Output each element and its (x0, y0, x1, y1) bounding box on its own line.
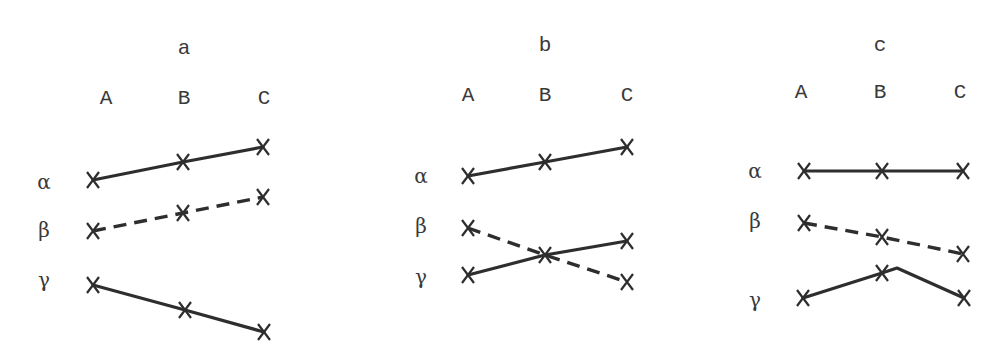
row-label-gamma: γ (415, 265, 427, 289)
row-label-gamma: γ (38, 268, 50, 292)
series-alpha-line (93, 147, 263, 180)
row-label-beta: β (415, 214, 427, 238)
row-label-alpha: α (748, 159, 762, 183)
series-gamma-line (93, 285, 264, 332)
panel-title: c (874, 34, 887, 57)
column-label-c: C (954, 81, 967, 104)
column-label-b: B (539, 84, 552, 107)
row-label-gamma: γ (749, 288, 761, 312)
column-label-a: A (795, 81, 808, 104)
x-marker-icons (797, 163, 970, 306)
panel-b: b A B C α β γ (414, 34, 633, 290)
panel-title: a (178, 37, 191, 60)
column-label-b: B (178, 87, 191, 110)
column-label-a: A (100, 87, 113, 110)
row-label-beta: β (749, 209, 761, 233)
column-label-c: C (258, 87, 271, 110)
interaction-plots-figure: a A B C α β γ b A B C α β γ (0, 0, 1002, 358)
column-label-a: A (462, 84, 475, 107)
row-label-alpha: α (414, 164, 428, 188)
panel-title: b (539, 34, 552, 57)
column-label-c: C (621, 84, 634, 107)
panel-c: c A B C α β γ (748, 34, 970, 312)
series-beta-line (93, 197, 263, 231)
series-alpha-line (468, 147, 627, 176)
panel-a: a A B C α β γ (37, 37, 270, 340)
column-label-b: B (874, 81, 887, 104)
row-label-alpha: α (37, 170, 51, 194)
row-label-beta: β (38, 218, 50, 242)
